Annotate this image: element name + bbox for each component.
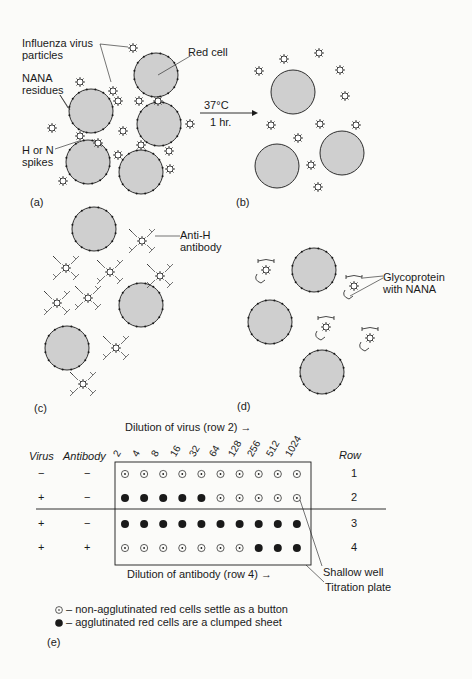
spike [336,72,337,73]
well-center-dot [220,473,222,475]
nana-residue-dot [309,389,311,391]
nana-residue-dot [84,335,86,337]
spike [143,141,144,142]
nana-residue-dot [136,119,138,121]
nana-residue-dot [162,308,164,310]
spike [268,266,269,267]
nana-residue-dot [136,149,138,151]
agglutinated-well-icon [140,520,148,528]
nana-residue-dot [62,325,64,327]
nana-residue-dot [78,329,80,331]
virus-sign: − [38,467,44,479]
spike [267,121,268,122]
label-h-or-n-spikes: H or Nspikes [22,144,54,168]
nana-residue-dot [317,247,319,249]
legend-button: – non-agglutinated red cells settle as a… [66,603,288,615]
glycoprotein-virus-icon [323,324,329,330]
nana-residue-dot [89,250,91,252]
spike [267,127,268,128]
spike [336,66,337,67]
antibody-stem [56,259,61,264]
row-number: 3 [351,517,357,529]
spike [82,78,83,79]
legend-button-dot [58,609,60,611]
nana-residue-dot [162,175,164,177]
spike [347,98,348,99]
spike [54,124,55,125]
glycoprotein-virus-icon [263,267,269,273]
spike [100,139,101,140]
spike [120,151,121,152]
well-center-dot [124,473,126,475]
spike [118,350,119,351]
antibody-arm [53,274,56,277]
spike [314,189,315,190]
spike [76,78,77,79]
virus-particle-icon [166,148,172,154]
nana-residue-dot [331,257,333,259]
nana-residue-dot [140,111,142,113]
virus-particle-icon [136,98,142,104]
spike [166,165,167,166]
spike [322,126,323,127]
antibody-arm [70,390,73,393]
nana-residue-dot [251,333,253,335]
spike [313,161,314,162]
spike [294,134,295,135]
well-center-dot [181,547,183,549]
spike [125,127,126,128]
header-row: Row [339,449,361,461]
spike [90,294,91,295]
spike [82,138,83,139]
nana-residue-dot [65,165,67,167]
spike [120,97,121,98]
nana-residue-dot [70,325,72,327]
nana-residue-dot [309,353,311,355]
antibody-arm [120,278,123,281]
nana-residue-dot [144,326,146,328]
nana-residue-dot [115,224,117,226]
antibody-arm [126,336,129,339]
antibody-stem [150,267,155,272]
antibody-stem [106,352,111,357]
antibody-arm [97,260,100,263]
nana-residue-dot [325,393,327,395]
nana-residue-dot [102,128,104,130]
antibody-bound-virus-icon [85,295,91,301]
spike [356,282,357,283]
nana-residue-dot [247,317,249,319]
antibody-stem [93,302,98,307]
antibody-sign: − [84,517,90,529]
antibody-stem [78,302,83,307]
antibody-arm [120,260,123,263]
spike [261,73,262,74]
nana-residue-dot [333,353,335,355]
well-center-dot [124,547,126,549]
antibody-arm [149,229,152,232]
nana-residue-dot [112,106,114,108]
nana-residue-dot [177,78,179,80]
nana-residue-dot [152,189,154,191]
nana-residue-dot [70,369,72,371]
spike [114,157,115,158]
spike [307,167,308,168]
glycoprotein-fragment [256,274,265,283]
spike [137,147,138,148]
virus-particle-icon [130,45,136,51]
spike [53,305,54,306]
nana-residue-dot [170,105,172,107]
nana-residue-dot [151,96,153,98]
antibody-arm [123,336,126,339]
antibody-arm [117,281,120,284]
spike [120,157,121,158]
virus-particle-icon [77,133,83,139]
antibody-arm [103,357,106,360]
agglutinated-well-icon [293,544,301,552]
nana-residue-dot [154,145,156,147]
virus-particle-icon [187,121,193,127]
antibody-arm [73,256,76,259]
top-axis-label: Dilution of virus (row 2) → [125,421,252,433]
antibody-arm [67,291,70,294]
leader-line [60,95,70,110]
nana-residue-dot [152,153,154,155]
